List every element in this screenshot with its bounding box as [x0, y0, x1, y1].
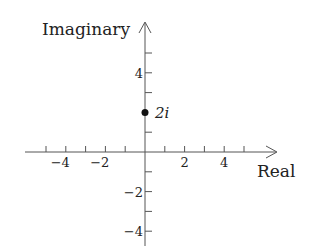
complex-plane-diagram: −4−224 4−2−4 Imaginary Real 2i: [0, 0, 321, 246]
real-axis-title: Real: [257, 161, 295, 181]
real-axis-tick-label: −2: [90, 155, 109, 170]
imaginary-axis-tick-label: −2: [124, 185, 143, 200]
point-label: 2i: [154, 104, 170, 122]
imaginary-axis-title: Imaginary: [42, 19, 131, 39]
real-axis-tick-label: 2: [180, 155, 188, 170]
imaginary-axis-tick-label: 4: [135, 66, 143, 81]
real-axis-tick-label: −4: [51, 155, 70, 170]
imaginary-axis-tick-label: −4: [124, 224, 143, 239]
point-2i: [142, 109, 149, 116]
real-axis-tick-label: 4: [220, 155, 228, 170]
real-axis-tick-labels: −4−224: [51, 155, 229, 170]
imaginary-axis-ticks: [145, 53, 152, 231]
